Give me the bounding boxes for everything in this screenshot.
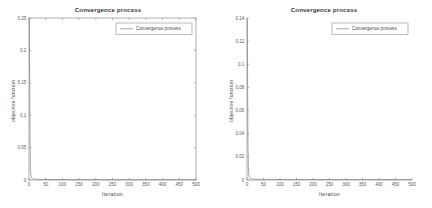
svg-text:450: 450 (175, 182, 183, 187)
svg-text:100: 100 (276, 182, 284, 187)
svg-text:150: 150 (293, 182, 301, 187)
svg-text:0: 0 (246, 182, 249, 187)
svg-text:0.06: 0.06 (235, 108, 244, 113)
svg-text:250: 250 (109, 182, 117, 187)
y-axis-label-left: objective function (10, 80, 16, 122)
svg-text:0.04: 0.04 (235, 131, 244, 136)
svg-text:150: 150 (75, 182, 83, 187)
svg-text:200: 200 (309, 182, 317, 187)
svg-text:100: 100 (59, 182, 67, 187)
svg-text:350: 350 (142, 182, 150, 187)
svg-text:0.25: 0.25 (17, 16, 26, 21)
plot-area-left: 05010015020025030035040045050000.050.10.… (0, 0, 216, 208)
y-axis-label-right: objective function (228, 80, 234, 122)
chart-figure-right: Convergence process 05010015020025030035… (216, 0, 432, 208)
svg-text:0.2: 0.2 (20, 48, 27, 53)
svg-text:400: 400 (375, 182, 383, 187)
svg-text:0: 0 (24, 178, 27, 183)
svg-text:0.05: 0.05 (17, 145, 26, 150)
plot-svg-left: 05010015020025030035040045050000.050.10.… (0, 0, 216, 208)
svg-text:250: 250 (326, 182, 334, 187)
svg-text:300: 300 (125, 182, 133, 187)
legend-label: Convergence process (136, 26, 181, 31)
svg-text:300: 300 (342, 182, 350, 187)
svg-text:400: 400 (159, 182, 167, 187)
svg-text:50: 50 (43, 182, 49, 187)
x-axis-label-left: Iteration (29, 191, 196, 197)
plot-svg-right: 05010015020025030035040045050000.020.040… (216, 0, 432, 208)
svg-text:200: 200 (92, 182, 100, 187)
svg-text:0.02: 0.02 (235, 154, 244, 159)
svg-text:350: 350 (359, 182, 367, 187)
svg-text:0: 0 (242, 178, 245, 183)
svg-text:0.08: 0.08 (235, 85, 244, 90)
svg-text:0: 0 (28, 182, 31, 187)
svg-text:450: 450 (392, 182, 400, 187)
svg-text:500: 500 (408, 182, 416, 187)
svg-text:500: 500 (192, 182, 200, 187)
svg-text:0.12: 0.12 (235, 39, 244, 44)
chart-figure-left: Convergence process 05010015020025030035… (0, 0, 216, 208)
x-axis-label-right: Iteration (247, 191, 412, 197)
svg-text:50: 50 (261, 182, 267, 187)
plot-area-right: 05010015020025030035040045050000.020.040… (216, 0, 432, 208)
svg-text:0.14: 0.14 (235, 16, 244, 21)
svg-text:0.15: 0.15 (17, 80, 26, 85)
legend-label: Convergence process (352, 26, 397, 31)
svg-text:0.1: 0.1 (20, 113, 27, 118)
svg-text:0.1: 0.1 (238, 62, 245, 67)
